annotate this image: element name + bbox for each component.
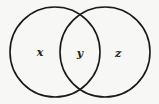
region-label-right-only: z: [114, 47, 122, 60]
left-circle: [10, 7, 100, 97]
region-label-left-only: x: [36, 46, 44, 59]
right-circle: [60, 7, 150, 97]
region-label-intersection: y: [76, 47, 85, 60]
venn-diagram: x y z: [0, 0, 159, 104]
